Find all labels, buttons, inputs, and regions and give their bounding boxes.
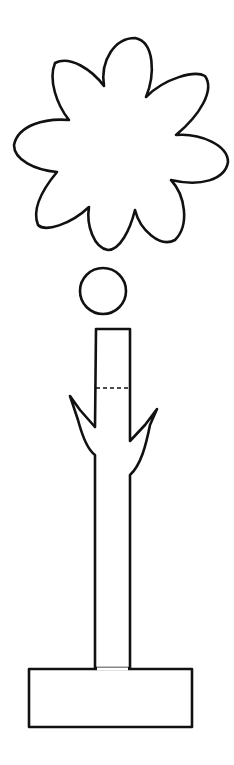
flower-petals-shape	[14, 38, 228, 250]
flower-center-circle	[80, 268, 126, 314]
base-rectangle	[29, 669, 192, 727]
flower-template-drawing	[0, 0, 234, 765]
stem-with-leaves-shape	[70, 329, 157, 668]
